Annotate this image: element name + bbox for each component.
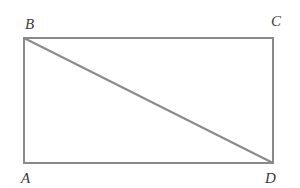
vertex-label-d: D [264, 170, 276, 186]
vertex-label-a: A [20, 170, 31, 186]
vertex-label-c: C [271, 13, 282, 29]
vertex-label-b: B [25, 16, 34, 32]
diagonal-bd [24, 38, 273, 163]
rectangle-diagram: B C A D [0, 0, 300, 188]
